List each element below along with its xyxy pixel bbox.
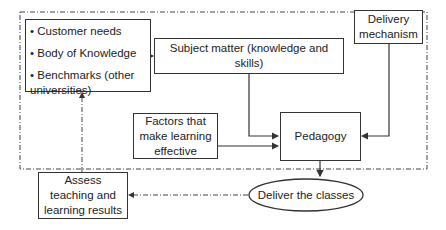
input-body-of-knowledge: • Body of Knowledge bbox=[30, 46, 146, 61]
subject-matter-label: Subject matter (knowledge and skills) bbox=[155, 41, 343, 71]
inputs-box: • Customer needs • Body of Knowledge • B… bbox=[25, 19, 151, 92]
curriculum-flow-diagram: • Customer needs • Body of Knowledge • B… bbox=[0, 0, 446, 230]
deliver-classes-label: Deliver the classes bbox=[249, 179, 363, 211]
delivery-mechanism-label: Delivery mechanism bbox=[355, 12, 422, 42]
input-customer-needs: • Customer needs bbox=[30, 24, 146, 39]
assess-box: Assess teaching and learning results bbox=[38, 172, 128, 219]
factors-label: Factors that make learning effective bbox=[138, 114, 213, 159]
pedagogy-box: Pedagogy bbox=[280, 112, 361, 161]
pedagogy-label: Pedagogy bbox=[295, 129, 347, 144]
subject-matter-box: Subject matter (knowledge and skills) bbox=[154, 38, 344, 74]
delivery-mechanism-box: Delivery mechanism bbox=[354, 10, 423, 44]
factors-box: Factors that make learning effective bbox=[133, 113, 218, 159]
assess-label: Assess teaching and learning results bbox=[43, 173, 123, 218]
input-benchmarks: • Benchmarks (other universities) bbox=[30, 68, 146, 98]
